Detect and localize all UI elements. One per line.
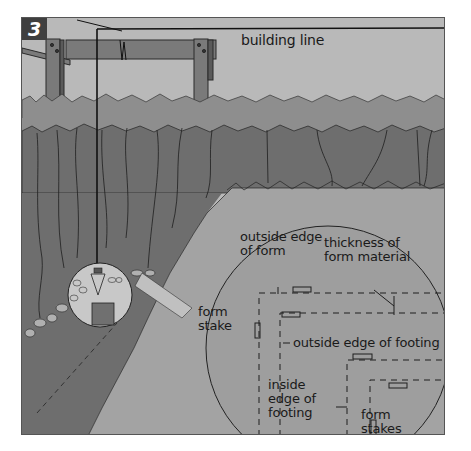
plumb-bob-inset (68, 263, 132, 327)
illustration-frame: 3 building line outside edge of form thi… (21, 17, 445, 435)
outside-edge-of-footing-label: outside edge of footing (293, 336, 439, 350)
outside-edge-of-form-label: outside edge of form (240, 230, 322, 258)
building-line-label: building line (241, 33, 324, 47)
inside-edge-of-footing-label: inside edge of footing (268, 378, 316, 420)
step-number-badge: 3 (22, 18, 47, 40)
footing-layout-illustration (22, 18, 445, 435)
form-stakes-label: form stakes (361, 408, 401, 435)
form-stake-label: form stake (198, 305, 232, 333)
thickness-of-form-material-label: thickness of form material (324, 236, 410, 264)
